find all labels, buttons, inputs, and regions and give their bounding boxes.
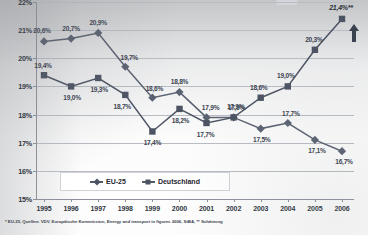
- data-point-marker: [41, 72, 47, 78]
- legend-label-eu25: EU-25: [106, 178, 126, 185]
- data-point-label: 19,7%: [121, 53, 138, 60]
- data-point-marker: [68, 83, 74, 89]
- x-axis-tickmark: [261, 199, 262, 202]
- legend-item-eu25[interactable]: EU-25: [90, 178, 126, 185]
- up-arrow-icon: [349, 24, 359, 42]
- chart-legend: EU-25 Deutschland: [60, 172, 230, 191]
- y-axis-label: 19%: [18, 82, 32, 91]
- data-point-marker: [230, 114, 236, 120]
- chart-figure: 15%16%17%18%19%20%21%22% 199519961997199…: [0, 0, 368, 235]
- data-point-marker: [339, 16, 345, 22]
- x-axis-tickmark: [125, 199, 126, 202]
- data-point-label: 17,1%: [308, 146, 325, 153]
- y-axis-label: 22%: [18, 0, 32, 7]
- data-point-label: 19,0%: [63, 94, 80, 101]
- x-axis-tickmark: [315, 199, 316, 202]
- data-point-label: 19,0%: [277, 72, 294, 79]
- footnote: * EU-25, Quellen: VDV, Europäische Kommi…: [5, 219, 285, 224]
- data-point-marker: [312, 47, 318, 53]
- data-point-label: 18,2%: [172, 116, 189, 123]
- x-axis-label: 2006: [334, 205, 349, 212]
- x-axis-tickmark: [288, 199, 289, 202]
- data-point-marker: [95, 75, 101, 81]
- square-icon: [142, 181, 155, 183]
- data-point-label: 20,3%: [305, 35, 322, 42]
- data-point-label: 18,8%: [171, 78, 188, 85]
- x-axis-label: 2005: [307, 205, 322, 212]
- data-point-label: 17,9%: [202, 104, 219, 111]
- y-axis-label: 16%: [18, 166, 32, 175]
- x-axis-label: 1995: [36, 205, 51, 212]
- data-point-marker: [257, 125, 265, 133]
- data-point-label: 20,6%: [33, 27, 50, 34]
- x-axis-tickmark: [44, 199, 45, 202]
- x-axis-label: 1997: [91, 205, 106, 212]
- x-axis-tickmark: [342, 199, 343, 202]
- x-axis-tickmark: [234, 199, 235, 202]
- x-axis-tickmark: [71, 199, 72, 202]
- data-point-marker: [149, 128, 155, 134]
- legend-item-deutschland[interactable]: Deutschland: [142, 178, 200, 185]
- series-lines: [36, 2, 354, 199]
- y-axis-label: 20%: [18, 54, 32, 63]
- legend-label-deutschland: Deutschland: [158, 178, 200, 185]
- x-axis-line: [36, 199, 354, 200]
- x-axis-label: 1998: [118, 205, 133, 212]
- data-point-label: 20,7%: [62, 24, 79, 31]
- series-line-eu-25: [44, 33, 342, 151]
- data-point-label: 19,4%: [34, 62, 51, 69]
- data-point-marker: [122, 92, 128, 98]
- diamond-icon: [90, 181, 103, 183]
- data-point-label: 18,6%: [146, 84, 163, 91]
- data-point-marker: [176, 106, 182, 112]
- x-axis-label: 1996: [63, 205, 78, 212]
- plot-area: 15%16%17%18%19%20%21%22% 199519961997199…: [36, 2, 354, 199]
- data-point-marker: [40, 37, 48, 45]
- x-axis-tickmark: [152, 199, 153, 202]
- x-axis-label: 2002: [226, 205, 241, 212]
- y-axis-label: 18%: [18, 110, 32, 119]
- data-point-label: 17,7%: [197, 131, 214, 138]
- x-axis-label: 2000: [172, 205, 187, 212]
- data-point-marker: [258, 95, 264, 101]
- x-axis-label: 1999: [145, 205, 160, 212]
- data-point-marker: [285, 83, 291, 89]
- x-axis-tickmark: [179, 199, 180, 202]
- x-axis-label: 2004: [280, 205, 295, 212]
- data-point-label: 20,9%: [89, 18, 106, 25]
- data-point-label: 17,9%: [227, 103, 244, 110]
- data-point-marker: [203, 120, 209, 126]
- data-point-marker: [67, 34, 75, 42]
- data-point-marker: [284, 119, 292, 127]
- data-point-label: 16,7%: [335, 158, 352, 165]
- data-point-label: 19,3%: [90, 85, 107, 92]
- y-axis-label: 17%: [18, 138, 32, 147]
- x-axis-label: 2001: [199, 205, 214, 212]
- y-axis-label: 15%: [18, 195, 32, 204]
- x-axis-tickmark: [98, 199, 99, 202]
- data-point-label: 17,4%: [144, 139, 161, 146]
- data-point-marker: [311, 136, 319, 144]
- data-point-label: 18,6%: [250, 83, 267, 90]
- x-axis-label: 2003: [253, 205, 268, 212]
- data-point-label: 17,7%: [282, 110, 299, 117]
- data-point-label: 17,5%: [253, 135, 270, 142]
- x-axis-tickmark: [207, 199, 208, 202]
- y-axis-label: 21%: [18, 26, 32, 35]
- data-point-label: 18,7%: [114, 102, 131, 109]
- data-point-label: 21,4%**: [329, 3, 353, 10]
- data-point-marker: [338, 147, 346, 155]
